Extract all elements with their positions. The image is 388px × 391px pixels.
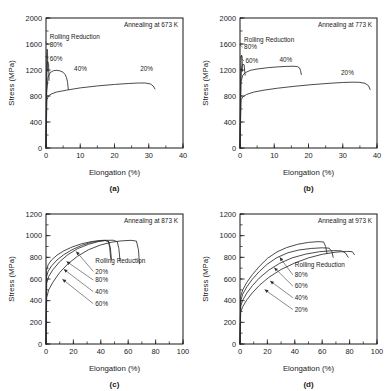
y-tick-label: 1200 [220,66,236,75]
series-label-20pct: 20% [95,268,108,275]
series-label-20pct: 20% [341,69,354,76]
panel-b: 0102030400400800120016002000Annealing at… [194,0,388,196]
x-axis-title: Elongation (%) [89,364,141,373]
y-tick-label: 400 [224,118,236,127]
panel-d-plot: 020406080100020040060080010001200Anneali… [194,196,388,391]
series-label-40pct: 40% [279,56,292,63]
series-label-60pct: 60% [245,57,258,64]
x-axis-title: Elongation (%) [283,168,335,177]
panel-c: 020406080100020040060080010001200Anneali… [0,196,194,391]
leader-line-80pct [67,261,94,280]
x-tick-label: 100 [177,347,189,356]
curve-40pct [46,240,120,344]
leader-line-60pct [62,279,93,303]
x-tick-label: 0 [238,151,242,160]
x-tick-label: 80 [345,347,353,356]
panel-b-plot: 0102030400400800120016002000Annealing at… [194,0,388,196]
y-tick-label: 2000 [220,14,236,23]
y-tick-label: 2000 [26,14,42,23]
y-tick-label: 1200 [220,210,236,219]
x-tick-label: 0 [44,347,48,356]
panel-d: 020406080100020040060080010001200Anneali… [194,196,388,391]
panel-title-annotation: Annealing at 673 K [124,21,179,29]
y-tick-label: 1600 [26,40,42,49]
leader-arrowhead [64,269,68,273]
y-axis-title: Stress (MPa) [201,256,210,302]
curve-20pct [46,83,155,148]
x-tick-label: 20 [304,151,312,160]
x-tick-label: 60 [124,347,132,356]
y-tick-label: 1000 [220,231,236,240]
x-tick-label: 30 [339,151,347,160]
y-tick-label: 1000 [26,231,42,240]
panel-subcaption: (c) [110,380,120,389]
panel-title-annotation: Annealing at 973 K [318,217,373,225]
panel-title-annotation: Annealing at 773 K [318,21,373,29]
panel-subcaption: (a) [110,184,120,193]
x-tick-label: 0 [44,151,48,160]
plot-frame [46,214,183,344]
leader-line-20pct [76,251,93,271]
panel-title-annotation: Annealing at 873 K [124,217,179,225]
y-tick-label: 400 [30,296,42,305]
x-tick-label: 0 [238,347,242,356]
leader-arrowhead [280,257,284,261]
leader-arrowhead [265,290,269,293]
curve-20pct [46,240,139,344]
x-tick-label: 60 [318,347,326,356]
y-tick-label: 800 [224,253,236,262]
legend-title: Rolling Reduction [95,257,146,265]
x-tick-label: 40 [373,151,381,160]
series-label-20pct: 20% [140,65,153,72]
curve-20pct [240,82,370,148]
panel-c-plot: 020406080100020040060080010001200Anneali… [0,196,194,391]
y-tick-label: 600 [224,275,236,284]
y-tick-label: 600 [30,275,42,284]
y-tick-label: 200 [224,318,236,327]
y-axis-title: Stress (MPa) [7,60,16,106]
y-axis-title: Stress (MPa) [201,60,210,106]
plot-frame [240,214,377,344]
y-tick-label: 1200 [26,210,42,219]
panel-a: 0102030400400800120016002000Annealing at… [0,0,194,196]
series-label-80pct: 80% [244,43,257,50]
series-label-40pct: 40% [74,65,87,72]
leader-line-40pct [64,269,94,292]
series-label-80pct: 80% [50,41,63,48]
x-tick-label: 30 [145,151,153,160]
leader-arrowhead [62,279,66,283]
x-tick-label: 80 [151,347,159,356]
x-tick-label: 20 [263,347,271,356]
x-tick-label: 10 [270,151,278,160]
x-tick-label: 40 [97,347,105,356]
x-axis-title: Elongation (%) [283,364,335,373]
y-tick-label: 800 [30,92,42,101]
y-tick-label: 0 [232,340,236,349]
x-tick-label: 100 [371,347,383,356]
panel-subcaption: (b) [303,184,314,193]
leader-arrowhead [270,281,274,285]
y-tick-label: 0 [38,340,42,349]
series-label-40pct: 40% [95,288,108,295]
series-label-20pct: 20% [295,306,308,313]
series-label-40pct: 40% [295,294,308,301]
x-tick-label: 10 [76,151,84,160]
curve-80pct [240,242,327,344]
series-label-80pct: 80% [95,276,108,283]
curve-40pct [240,66,301,148]
y-tick-label: 400 [30,118,42,127]
series-label-80pct: 80% [295,271,308,278]
y-tick-label: 800 [30,253,42,262]
leader-line-60pct [274,268,293,286]
leader-line-20pct [265,290,293,310]
y-tick-label: 0 [232,144,236,153]
panel-subcaption: (d) [303,380,314,389]
y-tick-label: 200 [30,318,42,327]
x-tick-label: 20 [69,347,77,356]
series-label-60pct: 60% [295,282,308,289]
y-tick-label: 1600 [220,40,236,49]
y-axis-title: Stress (MPa) [7,256,16,302]
y-tick-label: 800 [224,92,236,101]
x-tick-label: 40 [291,347,299,356]
stress-strain-figure: 0102030400400800120016002000Annealing at… [0,0,388,391]
